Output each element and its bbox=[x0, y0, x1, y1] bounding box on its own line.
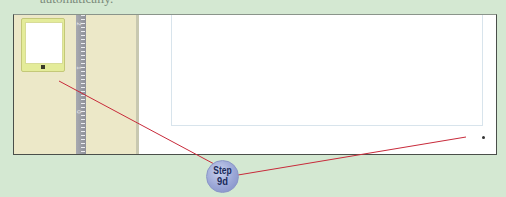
slide-number-marker bbox=[41, 65, 45, 69]
ruler-ticks bbox=[81, 15, 85, 154]
slide-thumbnail-1[interactable] bbox=[21, 18, 65, 72]
powerpoint-window: 2 1 0 bbox=[13, 14, 497, 155]
step-callout-badge: Step 9d bbox=[206, 160, 239, 193]
ruler-label: 2 bbox=[76, 22, 82, 25]
ruler-label: 0 bbox=[76, 110, 82, 113]
notes-pane-resize-handle[interactable] bbox=[482, 136, 485, 139]
step-number: 9d bbox=[209, 176, 235, 186]
slide-canvas[interactable] bbox=[171, 14, 483, 126]
cut-off-instruction-text: automatically. bbox=[40, 0, 113, 7]
slide-editing-area bbox=[139, 15, 496, 154]
slide-thumbnail-pane: 2 1 0 bbox=[14, 15, 136, 154]
slide-thumbnail-preview bbox=[25, 22, 63, 64]
vertical-ruler: 2 1 0 bbox=[76, 15, 86, 154]
ruler-label: 1 bbox=[76, 66, 82, 69]
